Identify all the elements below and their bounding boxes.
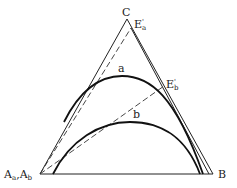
curve-a: [64, 76, 203, 174]
tie-line-to-Eb: [40, 86, 164, 174]
vertex-label-B: B: [218, 168, 226, 181]
tie-lines: [40, 28, 164, 174]
vertex-label-C: C: [122, 6, 130, 19]
edge-left: [40, 19, 127, 174]
ternary-diagram: C E'a E'b a b Aa,Ab B: [0, 0, 237, 188]
edge-right-outer: [127, 19, 213, 174]
curve-b: [53, 122, 200, 174]
tie-line-to-Ea: [40, 28, 131, 174]
vertex-label-Aa-Ab: Aa,Ab: [3, 168, 33, 182]
point-label-Ea: E'a: [134, 18, 146, 32]
curve-label-a: a: [118, 62, 125, 75]
point-label-Eb: E'b: [166, 78, 179, 92]
curve-label-b: b: [133, 108, 140, 121]
